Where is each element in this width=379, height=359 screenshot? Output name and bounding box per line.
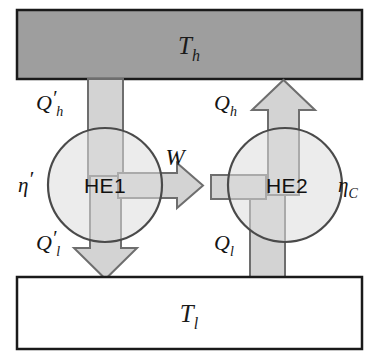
cold-reservoir: Tl [17,277,362,349]
he1-heat-out-subscript: l [56,244,60,259]
he1-heat-in-symbol: Q [36,90,52,115]
he2-heat-out-symbol: Q [214,90,230,115]
he1-label: HE1 [84,174,126,197]
hot-reservoir-subscript: h [192,47,200,64]
he1-efficiency-label: η′ [18,167,33,197]
he1-heat-out-symbol: Q [36,230,52,255]
cold-reservoir-subscript: l [194,315,199,332]
he1-efficiency-prime: ′ [28,167,33,191]
he2-heat-in-subscript: l [230,244,234,259]
he2-heat-in-label: Ql [214,230,234,259]
work-label: W [165,145,186,170]
hot-reservoir: Th [17,10,362,79]
he2-engine: HE2 [228,128,342,242]
he2-efficiency-label: ηC [338,173,358,201]
he2-heat-in-symbol: Q [214,230,230,255]
diagram-canvas: Th HE1 HE [0,0,379,359]
he1-heat-in-subscript: h [56,104,63,119]
he1-heat-in-label: Q′h [36,87,63,119]
he1-engine: HE1 [48,128,162,242]
he2-efficiency-symbol: η [338,173,348,197]
heat-engine-figure: Th HE1 HE [0,0,379,359]
he1-heat-out-label: Q′l [36,227,60,259]
he2-heat-out-label: Qh [214,90,237,119]
he2-heat-out-subscript: h [230,104,237,119]
he1-efficiency-symbol: η [18,173,28,197]
he2-label: HE2 [266,174,308,197]
he2-efficiency-subscript: C [349,186,359,201]
